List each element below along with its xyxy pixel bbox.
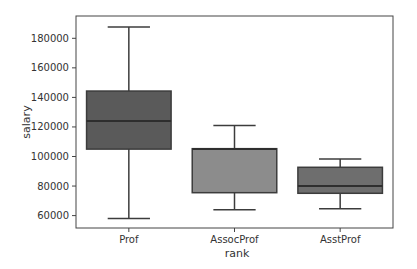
x-axis-label: rank	[225, 247, 250, 260]
iqr-box	[192, 149, 277, 193]
boxes-group	[87, 27, 383, 218]
box-assocprof	[192, 126, 277, 210]
box-plot-chart: 6000080000100000120000140000160000180000…	[0, 0, 417, 269]
y-axis: 6000080000100000120000140000160000180000	[31, 33, 76, 221]
x-tick-label: Prof	[119, 234, 139, 245]
y-tick-label: 180000	[31, 33, 69, 44]
x-tick-label: AsstProf	[320, 234, 361, 245]
y-tick-label: 80000	[37, 181, 69, 192]
y-tick-label: 100000	[31, 151, 69, 162]
box-asstprof	[298, 159, 383, 209]
y-axis-label: salary	[20, 105, 33, 139]
box-prof	[87, 27, 172, 218]
y-tick-label: 120000	[31, 121, 69, 132]
x-tick-label: AssocProf	[210, 234, 259, 245]
y-tick-label: 60000	[37, 210, 69, 221]
y-tick-label: 160000	[31, 62, 69, 73]
iqr-box	[298, 167, 383, 193]
x-axis: ProfAssocProfAsstProf	[119, 228, 361, 245]
y-tick-label: 140000	[31, 92, 69, 103]
